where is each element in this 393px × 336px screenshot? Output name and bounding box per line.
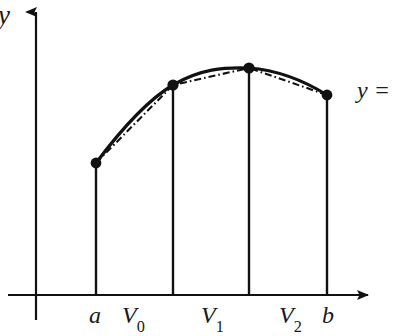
- node-marker-3: [243, 62, 254, 73]
- node-marker-b: [322, 90, 333, 101]
- tick-label-v2: V2: [279, 303, 302, 332]
- dash-dot-interpolant: [96, 68, 327, 163]
- tick-label-v1-subscript: 1: [216, 317, 224, 336]
- tick-label-v0-base: V: [122, 302, 137, 328]
- tick-label-v1-base: V: [201, 302, 216, 328]
- node-marker-a: [91, 158, 102, 169]
- tick-label-v0-subscript: 0: [137, 317, 145, 336]
- tick-label-v2-subscript: 2: [294, 317, 302, 336]
- tick-label-b: b: [322, 303, 334, 327]
- curve-equation-label: y =: [357, 78, 390, 102]
- figure-svg: [0, 0, 393, 336]
- figure-canvas: y y = a V0 V1 V2 b: [0, 0, 393, 336]
- tick-label-a: a: [89, 303, 101, 327]
- tick-label-v1: V1: [201, 303, 224, 332]
- solid-function-curve: [96, 68, 327, 163]
- tick-label-v2-base: V: [279, 302, 294, 328]
- tick-label-v0: V0: [122, 303, 145, 332]
- y-axis-label: y: [0, 2, 10, 29]
- node-marker-2: [167, 79, 178, 90]
